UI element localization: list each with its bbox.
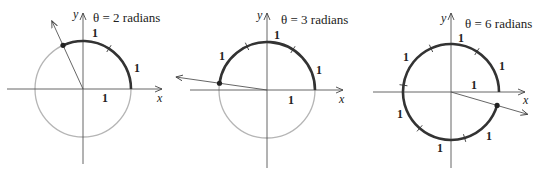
diagram-title: θ = 3 radians xyxy=(281,12,348,27)
unit-length-label: 1 xyxy=(471,78,477,92)
angle-arc xyxy=(63,41,131,89)
x-axis-label: x xyxy=(522,93,529,107)
diagram-title: θ = 6 radians xyxy=(465,16,532,31)
radian-tick-mark xyxy=(400,85,408,86)
terminal-point xyxy=(494,103,499,108)
unit-length-label: 1 xyxy=(403,50,409,64)
terminal-point xyxy=(217,81,222,86)
y-axis-label: y xyxy=(256,8,263,22)
y-axis-label: y xyxy=(440,11,447,25)
unit-length-label: 1 xyxy=(437,141,443,155)
unit-length-label: 1 xyxy=(458,31,464,45)
unit-length-label: 1 xyxy=(486,129,492,143)
unit-length-label: 1 xyxy=(102,91,108,105)
y-axis-label: y xyxy=(72,7,79,21)
radian-diagrams-canvas: θ = 2 radiansxy111 θ = 3 radiansxy1111 θ… xyxy=(0,0,537,174)
terminal-ray xyxy=(52,21,83,89)
unit-length-label: 1 xyxy=(219,49,225,63)
diagram-theta-6-radians: θ = 6 radiansxy1111111 xyxy=(373,11,532,168)
unit-length-label: 1 xyxy=(499,59,505,73)
x-axis-label: x xyxy=(338,92,345,106)
terminal-ray xyxy=(451,92,528,114)
unit-length-label: 1 xyxy=(92,26,98,40)
diagram-theta-3-radians: θ = 3 radiansxy1111 xyxy=(176,8,348,168)
diagram-theta-2-radians: θ = 2 radiansxy111 xyxy=(7,7,163,164)
diagram-title: θ = 2 radians xyxy=(93,10,160,25)
unit-length-label: 1 xyxy=(316,63,322,77)
unit-length-label: 1 xyxy=(288,93,294,107)
unit-length-label: 1 xyxy=(134,61,140,75)
unit-length-label: 1 xyxy=(397,107,403,121)
unit-length-label: 1 xyxy=(274,28,280,42)
terminal-point xyxy=(60,43,65,48)
x-axis-label: x xyxy=(156,91,163,105)
